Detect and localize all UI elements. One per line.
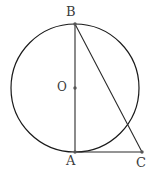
point-label-b: B xyxy=(66,5,76,18)
geometry-canvas xyxy=(0,0,155,192)
segment-bc xyxy=(75,24,142,152)
point-label-o: O xyxy=(57,81,67,94)
point-label-c: C xyxy=(136,156,146,169)
point-label-a: A xyxy=(66,154,75,167)
point-marker-b xyxy=(73,22,76,25)
point-marker-c xyxy=(140,150,143,153)
point-marker-o xyxy=(73,86,76,89)
geometry-figure: B O A C xyxy=(0,0,155,192)
